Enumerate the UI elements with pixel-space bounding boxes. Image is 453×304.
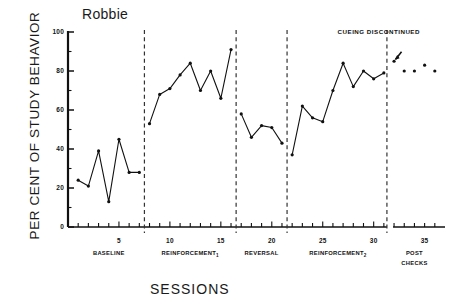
data-point (250, 136, 253, 139)
x-tick-label-25: 25 (313, 237, 333, 244)
data-point (219, 97, 222, 100)
x-tick-label-5: 5 (109, 237, 129, 244)
data-point (372, 77, 375, 80)
data-point (362, 69, 365, 72)
data-point (77, 179, 80, 182)
data-point (403, 69, 406, 72)
data-point (433, 69, 436, 72)
y-tick-label-60: 60 (44, 106, 64, 113)
x-tick-label-35: 35 (415, 237, 435, 244)
data-point (158, 93, 161, 96)
data-point (148, 122, 151, 125)
data-point (331, 89, 334, 92)
data-point (240, 112, 243, 115)
data-point (107, 200, 110, 203)
x-tick-label-10: 10 (160, 237, 180, 244)
annotation-cueing-discontinued: CUEING DISCONTINUED (338, 28, 420, 35)
series-line-2 (150, 50, 232, 124)
y-tick-label-20: 20 (44, 184, 64, 191)
chart-figure: Robbie PER CENT OF STUDY BEHAVIOR SESSIO… (0, 0, 453, 304)
data-point (128, 171, 131, 174)
x-tick-label-20: 20 (262, 237, 282, 244)
data-point (97, 149, 100, 152)
plot-canvas (0, 0, 453, 304)
x-tick-label-15: 15 (211, 237, 231, 244)
phase-label-3: REVERSAL (245, 250, 279, 256)
data-point (189, 62, 192, 65)
data-point (178, 73, 181, 76)
data-point (352, 85, 355, 88)
y-tick-label-40: 40 (44, 145, 64, 152)
data-point (260, 124, 263, 127)
phase-label-subscript: 1 (216, 253, 219, 258)
data-point (280, 142, 283, 145)
phase-label-1: BASELINE (93, 250, 125, 256)
data-point (209, 69, 212, 72)
data-point (168, 87, 171, 90)
data-point (382, 71, 385, 74)
series-line-3 (241, 114, 282, 143)
data-point (423, 64, 426, 67)
data-point (311, 116, 314, 119)
phase-label-subscript: 2 (364, 253, 367, 258)
y-tick-label-100: 100 (44, 28, 64, 35)
y-tick-label-80: 80 (44, 67, 64, 74)
data-point (301, 105, 304, 108)
data-point (270, 126, 273, 129)
data-point (392, 60, 395, 63)
y-tick-label-0: 0 (44, 223, 64, 230)
phase-label-4: REINFORCEMENT2 (309, 250, 366, 258)
phase-label-5: POST (406, 250, 423, 256)
data-point (321, 120, 324, 123)
data-point (291, 153, 294, 156)
data-point (413, 69, 416, 72)
phase-label-2: REINFORCEMENT1 (162, 250, 219, 258)
series-line-1 (78, 139, 139, 201)
phase-label-post-checks-line2: CHECKS (401, 260, 427, 266)
data-point (87, 184, 90, 187)
data-point (342, 62, 345, 65)
x-tick-label-30: 30 (364, 237, 384, 244)
series-line-4 (292, 63, 384, 155)
data-point (199, 89, 202, 92)
data-point (138, 171, 141, 174)
data-point (229, 48, 232, 51)
data-point (117, 138, 120, 141)
